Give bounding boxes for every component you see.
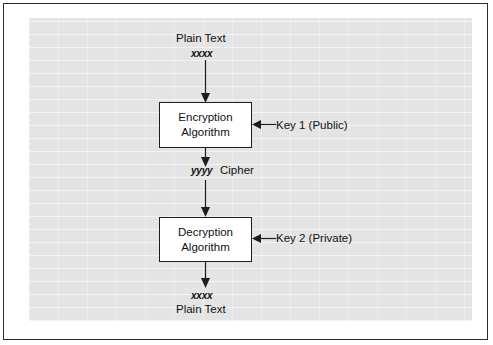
bottom-plaintext-variable-label: xxxx bbox=[191, 289, 212, 303]
key1-label: Key 1 (Public) bbox=[276, 119, 348, 131]
encryption-algorithm-box: Encryption Algorithm bbox=[159, 102, 252, 148]
top-plain-text-label: Plain Text bbox=[176, 31, 226, 45]
arrow-plaintext-to-encryption bbox=[199, 60, 213, 104]
arrow-decryption-to-plaintext bbox=[199, 262, 213, 289]
key2-label: Key 2 (Private) bbox=[276, 232, 352, 244]
cipher-text-label: Cipher bbox=[220, 163, 254, 177]
figure-frame: Plain Text xxxx Encryption Algorithm Key… bbox=[3, 3, 488, 340]
arrow-key2-to-decryption bbox=[252, 232, 277, 246]
encryption-box-line1: Encryption bbox=[178, 110, 232, 125]
encryption-box-line2: Algorithm bbox=[181, 125, 230, 140]
cipher-variable-label: yyyy bbox=[191, 164, 212, 178]
arrow-cipher-to-decryption bbox=[199, 180, 213, 218]
diagram-screenshot: Plain Text xxxx Encryption Algorithm Key… bbox=[0, 0, 493, 345]
arrow-key1-to-encryption bbox=[252, 118, 277, 132]
decryption-box-line1: Decryption bbox=[178, 225, 233, 240]
decryption-algorithm-box: Decryption Algorithm bbox=[159, 217, 252, 262]
bottom-plain-text-label: Plain Text bbox=[176, 302, 226, 316]
decryption-box-line2: Algorithm bbox=[181, 240, 230, 255]
top-plaintext-variable-label: xxxx bbox=[191, 47, 212, 61]
